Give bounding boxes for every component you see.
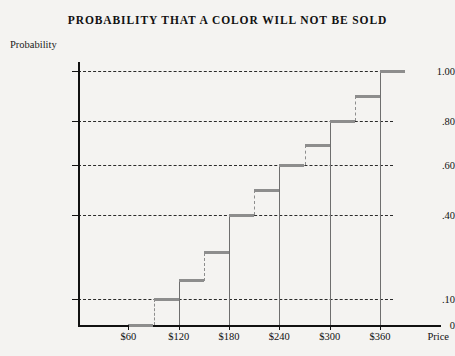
step-riser-solid	[330, 121, 331, 325]
step-tread	[380, 70, 405, 73]
x-tick-label-$360: $360	[370, 331, 391, 342]
x-tick-label-$240: $240	[269, 331, 290, 342]
y-tick-label-.10: .10	[389, 294, 455, 305]
x-tick-$300	[330, 325, 331, 330]
y-axis-title: Probability	[10, 39, 57, 50]
y-axis-line	[78, 62, 80, 327]
x-tick-label-$180: $180	[219, 331, 240, 342]
chart-root: PROBABILITY THAT A COLOR WILL NOT BE SOL…	[0, 0, 455, 356]
step-tread	[305, 144, 330, 147]
x-tick-$60	[128, 325, 129, 330]
step-tread	[204, 251, 229, 254]
step-tread	[330, 120, 355, 123]
step-tread	[355, 95, 380, 98]
step-tread	[128, 324, 153, 327]
step-riser-dashed	[204, 253, 205, 281]
x-tick-$180	[229, 325, 230, 330]
step-tread	[279, 164, 304, 167]
y-tick-label-.60: .60	[389, 160, 455, 171]
step-tread	[179, 279, 204, 282]
x-tick-label-$120: $120	[168, 331, 189, 342]
x-tick-$360	[380, 325, 381, 330]
x-axis-title: Price	[427, 331, 449, 342]
gridline-1.00	[78, 71, 393, 72]
y-tick-label-.80: .80	[389, 116, 455, 127]
step-riser-dashed	[355, 96, 356, 121]
step-riser-solid	[380, 71, 381, 325]
x-tick-$240	[279, 325, 280, 330]
step-tread	[154, 298, 179, 301]
y-tick-label-.40: .40	[389, 210, 455, 221]
chart-title: PROBABILITY THAT A COLOR WILL NOT BE SOL…	[0, 14, 455, 26]
step-riser-solid	[179, 281, 180, 325]
x-tick-label-$60: $60	[120, 331, 136, 342]
gridline-.60	[78, 165, 393, 166]
step-riser-dashed	[154, 299, 155, 325]
step-riser-dashed	[305, 145, 306, 165]
step-riser-solid	[229, 215, 230, 325]
step-tread	[254, 189, 279, 192]
x-tick-$120	[179, 325, 180, 330]
step-tread	[229, 214, 254, 217]
step-riser-dashed	[254, 190, 255, 215]
x-tick-label-$300: $300	[319, 331, 340, 342]
gridline-.10	[78, 299, 393, 300]
step-riser-solid	[279, 165, 280, 325]
